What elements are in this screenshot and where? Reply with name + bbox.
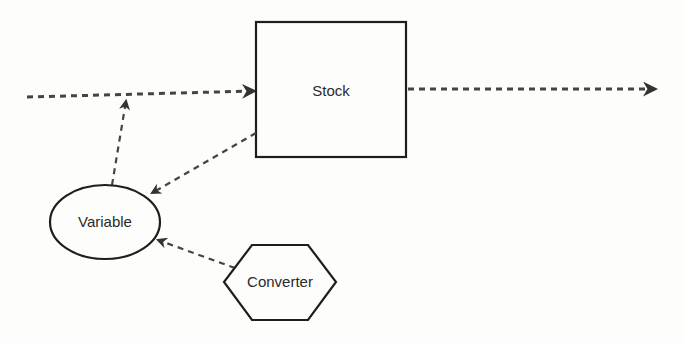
converter-label: Converter bbox=[247, 273, 313, 290]
converter-to-variable-link bbox=[158, 240, 235, 268]
inflow-arrow bbox=[27, 91, 254, 97]
stock-to-variable-link bbox=[152, 133, 256, 193]
stock-label: Stock bbox=[312, 82, 350, 99]
converter-node[interactable]: Converter bbox=[224, 245, 336, 320]
stock-flow-diagram: Stock Variable Converter bbox=[0, 0, 685, 344]
variable-node[interactable]: Variable bbox=[50, 185, 160, 259]
variable-to-inflow-link bbox=[112, 101, 126, 185]
stock-node[interactable]: Stock bbox=[256, 22, 406, 157]
variable-label: Variable bbox=[78, 213, 132, 230]
